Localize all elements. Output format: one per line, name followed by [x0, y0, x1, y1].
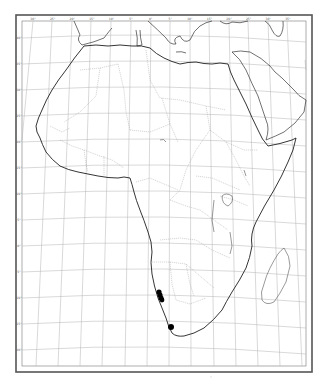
top-tick-label: 20° [70, 17, 76, 21]
top-tick-label: 35° [285, 17, 291, 21]
top-tick-label: 20° [226, 17, 232, 21]
map-frame-outer [16, 15, 312, 372]
lakes [160, 139, 246, 254]
left-tick-labels: 40°35°30°25°20°15°10°5°0°5°10°15°20° [16, 36, 22, 352]
africa-coast [36, 45, 296, 336]
footer-mark: · [210, 373, 212, 380]
left-tick-label: 20° [16, 140, 22, 144]
country-borders [50, 50, 258, 304]
top-tick-label: 0° [149, 17, 153, 21]
left-tick-label: 0° [17, 244, 21, 248]
lake-victoria [222, 194, 233, 206]
africa-map-svg: 30°25°20°15°10°5°0°5°10°15°20°25°30°35° … [0, 0, 329, 386]
occurrence-dot [160, 298, 165, 303]
left-tick-label: 15° [16, 322, 22, 326]
left-tick-label: 15° [16, 166, 22, 170]
left-tick-label: 30° [16, 88, 22, 92]
top-tick-label: 5° [129, 17, 133, 21]
left-tick-label: 35° [16, 62, 22, 66]
left-tick-label: 5° [17, 270, 21, 274]
lake-turkana [244, 170, 246, 176]
left-tick-label: 5° [17, 218, 21, 222]
top-tick-label: 25° [50, 17, 56, 21]
lake-tanganyika [212, 200, 214, 232]
lake-chad [160, 139, 166, 142]
map-frame-inner [22, 21, 306, 366]
arabia-coast [232, 51, 306, 140]
europe-coast [74, 21, 283, 53]
left-tick-label: 40° [16, 36, 22, 40]
top-tick-label: 15° [207, 17, 213, 21]
occurrence-points [156, 289, 174, 330]
graticule-parallels [22, 35, 306, 354]
left-tick-label: 25° [16, 114, 22, 118]
top-tick-label: 5° [168, 17, 172, 21]
lake-malawi [230, 232, 232, 254]
top-tick-labels: 30°25°20°15°10°5°0°5°10°15°20°25°30°35° [30, 17, 291, 21]
top-tick-label: 10° [109, 17, 115, 21]
top-tick-label: 30° [266, 17, 272, 21]
graticule-meridians [22, 21, 306, 366]
left-tick-label: 10° [16, 192, 22, 196]
top-tick-label: 25° [246, 17, 252, 21]
top-tick-label: 30° [30, 17, 36, 21]
top-tick-label: 15° [89, 17, 95, 21]
occurrence-dot [168, 324, 174, 330]
top-tick-label: 10° [187, 17, 193, 21]
left-tick-label: 20° [16, 348, 22, 352]
left-tick-label: 10° [16, 296, 22, 300]
madagascar-coast [261, 248, 290, 304]
distribution-map: 30°25°20°15°10°5°0°5°10°15°20°25°30°35° … [0, 0, 329, 386]
